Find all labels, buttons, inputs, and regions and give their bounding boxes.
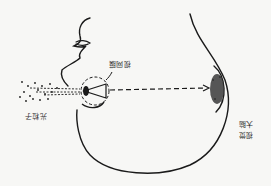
vision-diagram: 视网膜 光粒子 大脑 视觉 (0, 0, 271, 186)
retina-label: 视网膜 (108, 60, 131, 70)
head-outline-drawing (0, 0, 271, 186)
light-particles (19, 81, 58, 102)
visual-cortex-stipple (210, 74, 224, 104)
visual-brain-label-line1: 视觉 (238, 131, 253, 141)
signal-arrow (110, 88, 206, 90)
light-particles-label: 光粒子 (24, 112, 47, 122)
head-outline (77, 14, 229, 173)
face-profile (61, 18, 90, 86)
visual-brain-label-line2: 大脑 (238, 120, 253, 130)
